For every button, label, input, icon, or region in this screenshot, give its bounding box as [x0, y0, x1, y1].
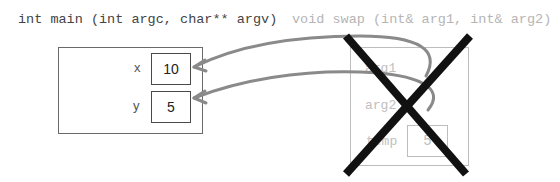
cross-out-icon [346, 36, 470, 174]
arrow-arg1-to-x [194, 36, 430, 76]
diagram-overlay [0, 0, 560, 182]
